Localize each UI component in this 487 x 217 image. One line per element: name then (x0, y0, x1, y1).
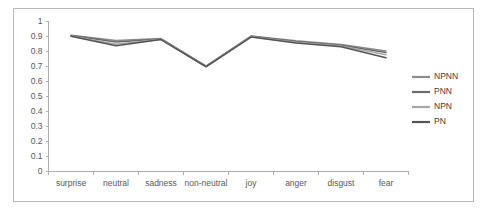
x-axis-tick-label: sadness (145, 178, 177, 188)
legend-label: PNN (434, 86, 452, 96)
legend-item-pn: PN (412, 116, 446, 126)
y-axis-tick-label: 0.7 (31, 61, 43, 71)
legend-label: NPNN (434, 71, 458, 81)
y-axis-tick-label: 0 (38, 166, 43, 176)
y-axis-tick-label: 0.3 (31, 121, 43, 131)
x-axis-tick-label: joy (245, 178, 258, 188)
chart-legend: NPNNPNNNPNPN (412, 71, 458, 126)
x-axis-tick-label: anger (285, 178, 307, 188)
line-chart: 00.10.20.30.40.50.60.70.80.91 surprisene… (0, 0, 487, 217)
series-lines (71, 35, 386, 67)
y-axis-tick-label: 0.9 (31, 31, 43, 41)
legend-item-npnn: NPNN (412, 71, 458, 81)
y-axis-tick-label: 1 (38, 16, 43, 26)
y-axis-tick-label: 0.4 (31, 106, 43, 116)
legend-item-pnn: PNN (412, 86, 452, 96)
legend-label: NPN (434, 101, 452, 111)
y-axis-tick-label: 0.8 (31, 46, 43, 56)
y-axis-tick-label: 0.6 (31, 76, 43, 86)
x-axis-tick-label: surprise (56, 178, 87, 188)
x-axis-tick-label: disgust (328, 178, 356, 188)
y-axis-tick-label: 0.5 (31, 91, 43, 101)
x-axis-tick-label: neutral (103, 178, 129, 188)
legend-item-npn: NPN (412, 101, 452, 111)
x-axis: surpriseneutralsadnessnon-neutraljoyange… (49, 171, 409, 188)
x-axis-tick-label: fear (379, 178, 394, 188)
x-axis-tick-label: non-neutral (184, 178, 227, 188)
legend-label: PN (434, 116, 446, 126)
y-axis: 00.10.20.30.40.50.60.70.80.91 (31, 16, 49, 176)
y-axis-tick-label: 0.1 (31, 151, 43, 161)
y-axis-tick-label: 0.2 (31, 136, 43, 146)
